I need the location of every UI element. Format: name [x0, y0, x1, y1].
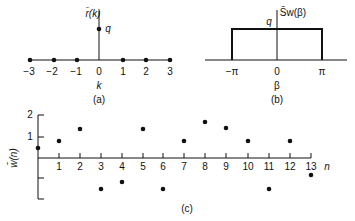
panel-c-xtick: 3: [98, 162, 104, 172]
panel-b-tick: 0: [274, 67, 280, 77]
panel-c-ytick: 1: [27, 132, 33, 142]
panel-b-level-label: q: [266, 17, 272, 27]
figure: [0, 0, 355, 221]
panel-c-xtick: 2: [77, 162, 83, 172]
panel-b-ylabel: S̄w(β): [280, 8, 306, 18]
panel-a-tick: −1: [70, 67, 81, 77]
panel-a-tick: 3: [167, 67, 173, 77]
panel-c-ylabel: w̄(n): [9, 148, 19, 167]
panel-c-ytick: 2: [27, 110, 33, 120]
panel-b-xlabel: β: [274, 81, 280, 91]
panel-c: [36, 115, 314, 199]
panel-c-xtick: 11: [264, 162, 274, 172]
panel-c-xtick: 8: [202, 162, 208, 172]
panel-c-xtick: 13: [305, 162, 316, 172]
panel-c-caption: (c): [181, 204, 193, 214]
panel-a-ylabel: r̄(k): [86, 9, 101, 19]
panel-a-tick: 0: [96, 67, 102, 77]
panel-c-x-ticks: [59, 153, 311, 158]
panel-b-tick: −π: [226, 67, 239, 77]
panel-c-xtick: 9: [223, 162, 229, 172]
panel-a-caption: (a): [93, 95, 105, 105]
panel-c-xtick: 12: [284, 162, 295, 172]
panel-c-xtick: 10: [242, 162, 253, 172]
panel-c-points: [36, 120, 314, 192]
panel-c-xlabel: n: [324, 162, 330, 172]
panel-a-tick: −2: [46, 67, 57, 77]
panel-a-tick: −3: [23, 67, 34, 77]
panel-c-xtick: 7: [181, 162, 187, 172]
panel-a-points: [28, 27, 173, 63]
panel-c-xtick: 1: [56, 162, 62, 172]
panel-c-xtick: 5: [140, 162, 146, 172]
panel-a-peak-label: q: [105, 24, 111, 34]
panel-c-xtick: 6: [160, 162, 166, 172]
panel-b-caption: (b): [271, 95, 283, 105]
panel-b-tick: π: [319, 67, 326, 77]
panel-a-xlabel: k: [97, 81, 102, 91]
panel-c-y-ticks: [38, 115, 44, 199]
panel-a-tick: 2: [143, 67, 149, 77]
panel-b: [205, 10, 347, 60]
panel-c-xtick: 4: [119, 162, 125, 172]
panel-a-tick: 1: [120, 67, 126, 77]
